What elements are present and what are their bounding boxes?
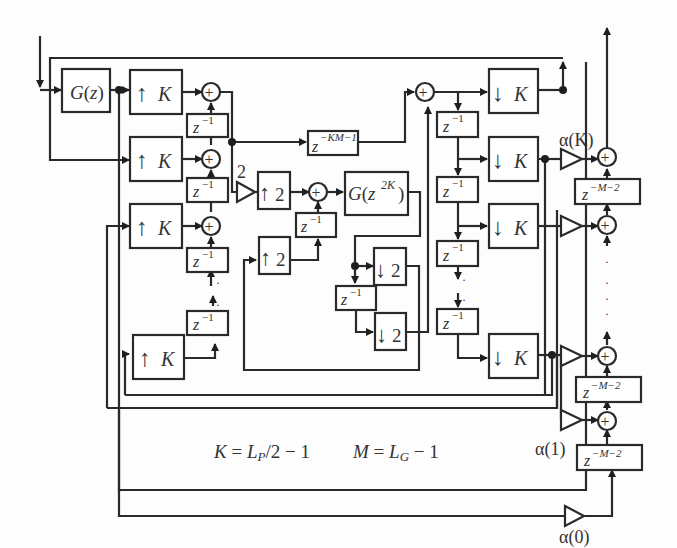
svg-text:·: ·	[605, 255, 609, 269]
svg-text:+: +	[419, 84, 428, 101]
svg-text:+: +	[205, 84, 214, 101]
coefficient-gain-triangle	[561, 149, 582, 169]
svg-text:−1: −1	[202, 114, 214, 126]
svg-text:z: z	[192, 183, 200, 200]
svg-text:·: ·	[605, 292, 609, 306]
svg-text:·: ·	[605, 307, 609, 321]
svg-text:+: +	[601, 149, 610, 166]
svg-text:−1: −1	[202, 311, 214, 323]
delay-block: z−1	[336, 286, 376, 310]
delay-block: z−1	[187, 114, 228, 137]
output-delay-block: z−M−2	[575, 179, 640, 204]
svg-text:z: z	[442, 315, 450, 332]
continuation-dots: · ·	[216, 276, 220, 312]
delay-block: z−1	[437, 241, 478, 266]
svg-text:·: ·	[605, 276, 609, 290]
svg-text:z: z	[300, 218, 308, 235]
svg-text:−1: −1	[452, 177, 464, 189]
svg-text:+: +	[601, 413, 610, 430]
svg-text:·: ·	[216, 276, 220, 290]
delay-block: z−1	[187, 178, 228, 202]
svg-text:↑: ↑	[136, 80, 148, 106]
adder: +	[416, 83, 434, 101]
delay-block: z−1	[437, 309, 478, 334]
svg-text:−1: −1	[202, 248, 214, 260]
svg-text:z: z	[340, 291, 348, 308]
svg-text:−1: −1	[202, 178, 214, 190]
svg-text:↑: ↑	[260, 245, 271, 270]
diagram-canvas: G(z) ↑ K ↑ K ↑ K ↑ K + + + z−1 z−1 z−1 z…	[0, 0, 677, 548]
delay-block: z−1	[437, 112, 478, 137]
svg-text:K: K	[513, 347, 529, 369]
svg-text:−1: −1	[310, 213, 322, 225]
adder: +	[202, 217, 220, 235]
svg-text:z: z	[311, 138, 319, 155]
svg-text:2: 2	[276, 249, 286, 270]
downsampler-2-block: ↓ 2	[375, 313, 406, 350]
output-delay-block: z−M−2	[577, 445, 642, 470]
svg-text:K: K	[513, 150, 529, 172]
svg-text:K: K	[157, 83, 173, 105]
svg-text:−M−2: −M−2	[592, 447, 622, 459]
equation-M: M = LG − 1	[352, 441, 439, 464]
adder: +	[598, 148, 616, 166]
svg-text:z: z	[442, 183, 450, 200]
svg-text:K: K	[513, 217, 529, 239]
svg-text:−M−2: −M−2	[590, 181, 620, 193]
svg-text:−1: −1	[452, 309, 464, 321]
delay-block: z−1	[187, 248, 228, 272]
downsampler-K-block: ↓ K	[489, 334, 538, 378]
alpha-0-label: α(0)	[559, 527, 589, 548]
block-diagram: G(z) ↑ K ↑ K ↑ K ↑ K + + + z−1 z−1 z−1 z…	[0, 0, 677, 548]
svg-text:K: K	[157, 150, 173, 172]
svg-text:z: z	[582, 384, 590, 401]
svg-text:z: z	[583, 452, 591, 469]
alpha-1-label: α(1)	[535, 439, 565, 460]
svg-text:↑: ↑	[136, 147, 148, 173]
adder: +	[598, 216, 616, 234]
long-delay-block: z −KM−1	[308, 131, 358, 155]
upsampler-2-block: ↑ 2	[259, 237, 290, 274]
svg-text:↓: ↓	[492, 214, 504, 240]
svg-text:↑: ↑	[259, 180, 270, 205]
upsampler-K-block: ↑ K	[130, 204, 182, 248]
adder: +	[202, 150, 220, 168]
svg-text:2: 2	[392, 325, 402, 346]
adder: +	[202, 83, 220, 101]
svg-text:−1: −1	[452, 112, 464, 124]
svg-text:−KM−1: −KM−1	[320, 131, 357, 143]
svg-text:G(z: G(z	[348, 183, 376, 205]
svg-text:2K: 2K	[381, 178, 396, 192]
prefilter-block: G(z)	[62, 69, 110, 112]
continuation-dots: · ·	[462, 273, 466, 307]
svg-text:z: z	[192, 119, 200, 136]
svg-text:↓: ↓	[375, 257, 386, 282]
coefficient-gain-triangle	[561, 346, 582, 366]
svg-text:+: +	[205, 151, 214, 168]
svg-text:·: ·	[462, 293, 466, 307]
svg-text:−M−2: −M−2	[591, 379, 621, 391]
delay-block: z−1	[437, 177, 478, 202]
upsampler-K-block: ↑ K	[130, 137, 182, 181]
svg-text:z: z	[192, 316, 200, 333]
svg-text:·: ·	[216, 298, 220, 312]
interp-filter-block: G(z 2K )	[345, 172, 408, 215]
downsampler-K-block: ↓ K	[489, 204, 538, 248]
alpha-K-label: α(K)	[559, 130, 593, 151]
svg-text:−1: −1	[350, 286, 362, 298]
svg-text:z: z	[581, 186, 589, 203]
upsampler-2-block: ↑ 2	[258, 172, 290, 209]
adder: +	[309, 183, 327, 201]
output-delay-block: z−M−2	[576, 377, 641, 402]
svg-text:−1: −1	[452, 241, 464, 253]
svg-text:): )	[398, 183, 404, 205]
downsampler-K-block: ↓ K	[489, 137, 538, 181]
upsampler-K-block: ↑ K	[133, 335, 184, 379]
equation-K: K = LP/2 − 1	[213, 441, 310, 464]
upsampler-K-block: ↑ K	[130, 70, 182, 114]
downsampler-K-block: ↓ K	[489, 69, 538, 113]
coefficient-gain-triangle	[561, 216, 582, 236]
svg-text:G(z): G(z)	[70, 82, 104, 104]
svg-text:+: +	[601, 348, 610, 365]
svg-text:z: z	[442, 247, 450, 264]
